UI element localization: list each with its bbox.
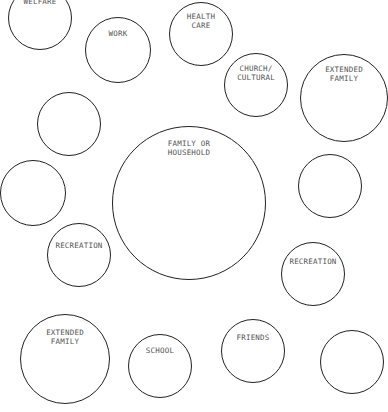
circle-empty-left-upper [37, 92, 101, 156]
circle-extended-family-right: EXTENDED FAMILY [300, 54, 388, 142]
circle-label: WORK [86, 29, 150, 38]
circle-label: RECREATION [282, 257, 344, 266]
circle-health-care: HEALTH CARE [169, 2, 233, 66]
circle-label: FAMILY OR HOUSEHOLD [113, 139, 265, 157]
circle-empty-far-left [0, 160, 66, 226]
circle-label: EXTENDED FAMILY [301, 65, 387, 83]
circle-empty-bottom-right [320, 330, 384, 394]
circle-label: RECREATION [48, 241, 110, 250]
circle-church-cultural: CHURCH/ CULTURAL [224, 53, 288, 117]
circle-welfare: WELFARE [8, 0, 72, 50]
circle-family-or-household: FAMILY OR HOUSEHOLD [112, 126, 266, 280]
circle-label: HEALTH CARE [170, 12, 232, 30]
circle-empty-right [298, 154, 362, 218]
circle-label: EXTENDED FAMILY [21, 328, 109, 346]
circle-extended-family-bottom: EXTENDED FAMILY [20, 314, 110, 404]
circle-work: WORK [85, 17, 151, 83]
circle-recreation-left: RECREATION [47, 223, 111, 287]
circle-label: WELFARE [9, 0, 71, 6]
circle-label: FRIENDS [222, 333, 284, 342]
circle-label: CHURCH/ CULTURAL [225, 64, 287, 82]
circle-school: SCHOOL [128, 334, 192, 398]
circle-label: SCHOOL [129, 346, 191, 355]
circle-recreation-right: RECREATION [281, 242, 345, 306]
ecomap-diagram: WELFARE WORK HEALTH CARE CHURCH/ CULTURA… [0, 0, 388, 412]
circle-friends: FRIENDS [221, 319, 285, 383]
